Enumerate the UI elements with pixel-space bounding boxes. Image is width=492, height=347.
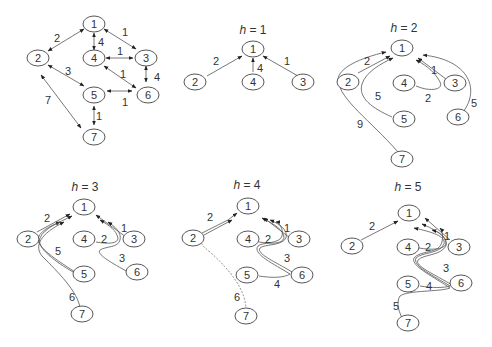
svg-text:7: 7	[405, 317, 411, 329]
svg-text:4: 4	[91, 52, 97, 64]
node-4: 4	[397, 239, 419, 255]
panel-title: h = 1	[239, 23, 266, 37]
cost-label: 5	[471, 97, 477, 109]
svg-text:7: 7	[79, 308, 85, 320]
svg-text:6: 6	[299, 269, 305, 281]
svg-text:6: 6	[145, 89, 151, 101]
svg-text:4: 4	[401, 77, 407, 89]
node-2: 2	[182, 230, 204, 246]
node-3: 3	[135, 50, 157, 66]
node-3: 3	[123, 231, 145, 247]
weight-label: 1	[96, 110, 102, 122]
cost-label: 6	[234, 291, 240, 303]
path-3-1	[263, 56, 298, 76]
cost-label: 3	[284, 252, 290, 264]
node-6: 6	[447, 109, 469, 125]
weight-label: 2	[54, 32, 60, 44]
panel-h2: h = 2 2 1 2 5 5 9 1 2 4 3 5 6 7	[337, 21, 477, 167]
cost-label: 3	[443, 262, 449, 274]
path-4-1	[419, 224, 446, 249]
weight-label: 4	[98, 36, 104, 48]
cost-label: 2	[44, 212, 50, 224]
svg-text:1: 1	[250, 43, 256, 55]
panel-h4: h = 4 2 1 2 3 4 6 1 2 4 3 5 6 7	[182, 178, 313, 324]
svg-text:5: 5	[244, 269, 250, 281]
panel-graph: 2 4 1 1 3 1 4 7 1 1 1 2 3 4 5 6 7	[27, 16, 160, 145]
node-7: 7	[391, 151, 413, 167]
svg-text:1: 1	[81, 201, 87, 213]
node-7: 7	[397, 315, 419, 331]
svg-text:5: 5	[81, 268, 87, 280]
svg-text:3: 3	[296, 233, 302, 245]
node-5: 5	[393, 111, 415, 127]
graph-weights: 2 4 1 1 3 1 4 7 1 1	[45, 26, 160, 122]
node-1: 1	[242, 41, 264, 57]
cost-label: 5	[375, 90, 381, 102]
node-4: 4	[73, 231, 95, 247]
path-5-1b	[39, 216, 73, 272]
cost-label: 4	[257, 62, 263, 74]
svg-text:2: 2	[190, 232, 196, 244]
weight-label: 1	[120, 68, 126, 80]
node-4: 4	[242, 74, 264, 90]
svg-text:1: 1	[245, 200, 251, 212]
svg-text:5: 5	[405, 278, 411, 290]
svg-text:1: 1	[406, 207, 412, 219]
cost-label: 2	[207, 211, 213, 223]
node-5: 5	[397, 276, 419, 292]
svg-text:3: 3	[131, 233, 137, 245]
node-2: 2	[17, 231, 39, 247]
node-7: 7	[83, 129, 105, 145]
svg-text:6: 6	[458, 277, 464, 289]
node-1: 1	[83, 16, 105, 32]
svg-text:7: 7	[243, 310, 249, 322]
cost-label: 2	[101, 233, 107, 245]
weight-label: 1	[117, 45, 123, 57]
weight-label: 1	[122, 96, 128, 108]
cost-label: 1	[431, 64, 437, 76]
node-1: 1	[391, 40, 413, 56]
node-3: 3	[288, 231, 310, 247]
cost-label: 9	[357, 118, 363, 130]
svg-text:2: 2	[25, 233, 31, 245]
path-2-1	[37, 214, 70, 232]
svg-text:6: 6	[455, 111, 461, 123]
svg-text:4: 4	[81, 233, 87, 245]
svg-text:5: 5	[91, 89, 97, 101]
svg-text:4: 4	[405, 241, 411, 253]
weight-label: 1	[122, 26, 128, 38]
panel-h3: h = 3 2 1 2 5 3 6 1 2 4 3 5 6 7	[17, 180, 148, 322]
svg-text:2: 2	[192, 76, 198, 88]
path-2-1	[361, 221, 398, 240]
cost-label: 1	[444, 230, 450, 242]
svg-text:3: 3	[143, 52, 149, 64]
node-2: 2	[184, 74, 206, 90]
cost-label: 5	[55, 245, 61, 257]
svg-text:1: 1	[399, 42, 405, 54]
graph-nodes: 1 2 3 4 5 6 7	[27, 16, 159, 145]
svg-text:7: 7	[399, 153, 405, 165]
panel-title: h = 5	[394, 180, 421, 194]
figure-canvas: 2 4 1 1 3 1 4 7 1 1 1 2 3 4 5 6 7 h = 1 …	[0, 0, 492, 347]
panel-h1: h = 1 2 4 1 1 2 4 3	[184, 23, 314, 90]
cost-label: 1	[284, 55, 290, 67]
cost-label: 3	[119, 252, 125, 264]
svg-text:3: 3	[456, 241, 462, 253]
svg-text:7: 7	[91, 131, 97, 143]
svg-text:3: 3	[300, 76, 306, 88]
panel-title: h = 2	[390, 21, 417, 35]
node-4: 4	[83, 50, 105, 66]
node-1: 1	[237, 198, 259, 214]
svg-text:2: 2	[349, 240, 355, 252]
node-7: 7	[71, 306, 93, 322]
cost-label: 4	[274, 278, 280, 290]
node-5: 5	[236, 267, 258, 283]
weight-label: 4	[154, 71, 160, 83]
cost-label: 2	[213, 55, 219, 67]
node-4: 4	[237, 231, 259, 247]
node-2: 2	[337, 74, 359, 90]
node-5: 5	[83, 87, 105, 103]
cost-label: 2	[425, 241, 431, 253]
node-3: 3	[448, 239, 470, 255]
node-3: 3	[292, 74, 314, 90]
